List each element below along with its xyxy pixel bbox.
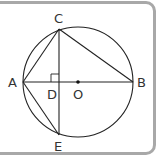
label-O: O [73, 87, 83, 102]
geometry-diagram: C A B D O E [0, 0, 163, 163]
label-E: E [54, 139, 62, 154]
label-B: B [137, 75, 146, 90]
label-C: C [54, 11, 63, 26]
right-angle-marker [51, 74, 59, 82]
label-D: D [47, 87, 57, 102]
segment-CB [59, 29, 133, 82]
label-A: A [8, 75, 17, 90]
center-point-O [76, 80, 80, 84]
